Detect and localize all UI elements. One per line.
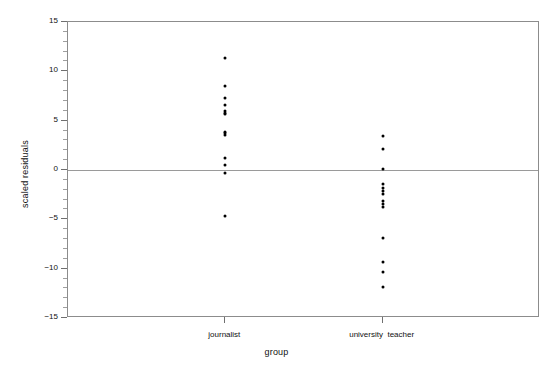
data-point	[381, 205, 384, 208]
y-axis-tick	[61, 317, 67, 318]
x-axis-title: group	[0, 347, 553, 357]
y-axis-tick-label: −5	[18, 214, 58, 222]
data-point	[224, 134, 227, 137]
y-axis-title: scaled residuals	[20, 104, 30, 244]
y-axis-tick-label: −15	[18, 313, 58, 321]
y-axis-tick-label: 0	[18, 165, 58, 173]
chart-canvas: scaled residuals 151050−5−10−15 journali…	[0, 0, 553, 365]
data-point	[381, 192, 384, 195]
data-point	[381, 270, 384, 273]
y-axis-tick-label: 15	[18, 17, 58, 25]
data-point	[224, 215, 227, 218]
data-point	[224, 157, 227, 160]
data-point	[381, 168, 384, 171]
data-point	[224, 85, 227, 88]
y-axis-tick-label: −10	[18, 264, 58, 272]
data-point	[224, 96, 227, 99]
zero-reference-line	[68, 170, 538, 171]
data-point	[224, 56, 227, 59]
data-point	[224, 112, 227, 115]
data-point	[381, 135, 384, 138]
y-axis-tick-label: 10	[18, 66, 58, 74]
x-axis-tick-label: university teacher	[349, 330, 414, 339]
data-point	[224, 164, 227, 167]
data-point	[381, 148, 384, 151]
data-point	[381, 237, 384, 240]
data-point	[381, 286, 384, 289]
x-axis-tick-label: journalist	[208, 330, 240, 339]
y-axis-tick-label: 5	[18, 116, 58, 124]
plot-area	[67, 21, 539, 317]
data-point	[381, 260, 384, 263]
data-point	[381, 182, 384, 185]
data-point	[224, 171, 227, 174]
x-axis-tick	[224, 317, 225, 323]
x-axis-tick	[382, 317, 383, 323]
data-point	[224, 103, 227, 106]
